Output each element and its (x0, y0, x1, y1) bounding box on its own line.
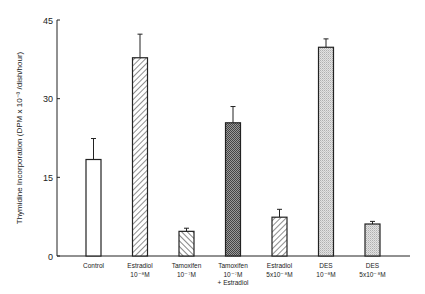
category-labels: ControlEstradiol10⁻⁸MTamoxifen10⁻⁷MTamox… (83, 262, 386, 286)
x-tick-label: Tamoxifen (218, 262, 248, 269)
x-tick-label: Estradiol (267, 262, 293, 269)
bar (226, 123, 241, 256)
x-tick-label: 10⁻⁷M (177, 271, 196, 278)
x-tick-label: 10⁻⁸M (316, 271, 335, 278)
y-tick-label: 15 (43, 173, 53, 183)
x-tick-label: DES (366, 262, 380, 269)
y-tick-label: 30 (43, 94, 53, 104)
bar-group (226, 107, 241, 256)
bar-group (272, 209, 287, 256)
x-tick-label: 10⁻⁷M (224, 271, 243, 278)
bar-group (179, 228, 194, 256)
bar-group (133, 34, 148, 256)
bar (272, 217, 287, 256)
x-tick-label: Estradiol (127, 262, 153, 269)
x-tick-label: Control (83, 262, 105, 269)
bar-group (86, 139, 101, 256)
bar-group (365, 221, 380, 256)
bar (365, 224, 380, 256)
y-axis-label: Thymidine Incorporation (DPM x 10⁻³ /dis… (15, 51, 24, 224)
bars (86, 34, 380, 256)
x-tick-label: 10⁻⁸M (130, 271, 149, 278)
y-tick-label: 45 (43, 16, 53, 26)
y-tick-label: 0 (48, 252, 53, 262)
x-tick-label: + Estradiol (218, 279, 249, 286)
x-tick-label: 5x10⁻⁸M (359, 271, 385, 278)
bar (86, 160, 101, 256)
bar-group (319, 39, 334, 256)
bar-chart: 0153045 ControlEstradiol10⁻⁸MTamoxifen10… (0, 0, 425, 294)
x-tick-label: Tamoxifen (172, 262, 202, 269)
x-tick-label: DES (319, 262, 333, 269)
x-tick-label: 5x10⁻⁸M (266, 271, 292, 278)
bar (179, 231, 194, 256)
y-axis: 0153045 (43, 16, 60, 262)
bar (133, 58, 148, 256)
bar (319, 47, 334, 256)
